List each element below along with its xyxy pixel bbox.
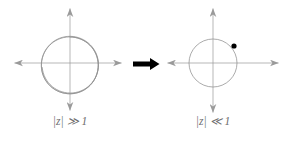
right-panel-caption: |z| ≪ 1 (163, 114, 263, 128)
left-panel-caption: |z| ≫ 1 (20, 114, 120, 128)
marked-point-z (231, 43, 236, 48)
transform-arrow-shape (133, 58, 160, 70)
left-caption-text: |z| ≫ 1 (53, 115, 87, 127)
right-caption-text: |z| ≪ 1 (196, 115, 230, 127)
right-panel (168, 9, 279, 113)
left-panel (15, 9, 122, 111)
figure-root: |z| ≫ 1 |z| ≪ 1 (0, 0, 287, 142)
transform-arrow (133, 58, 160, 70)
